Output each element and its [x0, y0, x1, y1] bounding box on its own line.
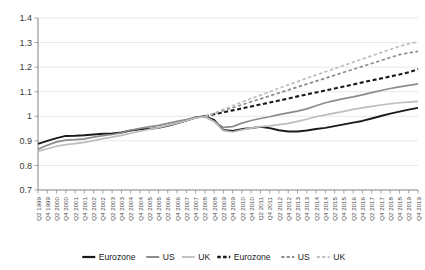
y-tick-label: 1.3 — [19, 38, 32, 48]
series-eurozone-solid — [38, 108, 418, 144]
legend-label-eurozone-solid: Eurozone — [99, 252, 136, 262]
legend-label-us-dashed: US — [298, 252, 310, 262]
line-chart: 0.70.80.911.11.21.31.4 Q2 1999Q4 1999Q2 … — [0, 0, 425, 270]
x-tick-label: Q2 2002 — [90, 196, 97, 220]
x-axis: Q2 1999Q4 1999Q2 2000Q4 2000Q2 2001Q4 20… — [35, 190, 422, 221]
x-tick-label: Q4 2004 — [137, 196, 144, 220]
y-tick-label: 1 — [27, 111, 32, 121]
x-tick-label: Q2 2008 — [201, 196, 208, 220]
legend-label-uk-dashed: UK — [333, 252, 345, 262]
x-tick-label: Q2 2017 — [368, 196, 375, 220]
x-tick-label: Q4 2009 — [229, 196, 236, 220]
x-tick-label: Q2 2003 — [109, 196, 116, 220]
x-tick-label: Q4 2010 — [248, 196, 255, 220]
chart-legend: EurozoneUSUKEurozoneUSUK — [82, 252, 345, 262]
y-tick-label: 1.4 — [19, 13, 32, 23]
x-tick-label: Q4 2000 — [62, 196, 69, 220]
x-tick-label: Q2 2009 — [220, 196, 227, 220]
x-tick-label: Q4 2019 — [415, 196, 422, 220]
x-tick-label: Q2 1999 — [35, 196, 42, 220]
y-tick-label: 1.2 — [19, 62, 32, 72]
x-tick-label: Q2 2006 — [164, 196, 171, 220]
y-tick-label: 0.8 — [19, 161, 32, 171]
x-tick-label: Q2 2005 — [146, 196, 153, 220]
x-tick-label: Q4 2001 — [81, 196, 88, 220]
series-eurozone-dashed — [205, 69, 418, 116]
x-tick-label: Q4 2006 — [174, 196, 181, 220]
x-tick-label: Q4 2005 — [155, 196, 162, 220]
x-tick-label: Q4 2013 — [303, 196, 310, 220]
legend-label-us-solid: US — [163, 252, 175, 262]
x-tick-label: Q4 1999 — [44, 196, 51, 220]
y-tick-label: 0.7 — [19, 185, 32, 195]
x-tick-label: Q4 2014 — [322, 196, 329, 220]
x-tick-label: Q2 2010 — [239, 196, 246, 220]
x-tick-label: Q2 2000 — [53, 196, 60, 220]
x-tick-label: Q2 2016 — [350, 196, 357, 220]
x-tick-label: Q2 2007 — [183, 196, 190, 220]
y-tick-label: 1.1 — [19, 87, 32, 97]
x-tick-label: Q4 2003 — [118, 196, 125, 220]
x-tick-label: Q2 2018 — [387, 196, 394, 220]
x-tick-label: Q4 2007 — [192, 196, 199, 220]
x-tick-label: Q4 2015 — [340, 196, 347, 220]
x-tick-label: Q4 2017 — [378, 196, 385, 220]
x-tick-label: Q2 2015 — [331, 196, 338, 220]
x-tick-label: Q4 2002 — [99, 196, 106, 220]
gridlines — [38, 18, 418, 190]
x-tick-label: Q4 2016 — [359, 196, 366, 220]
x-tick-label: Q2 2004 — [127, 196, 134, 220]
series-uk-dashed — [205, 42, 418, 117]
x-tick-label: Q2 2019 — [405, 196, 412, 220]
x-tick-label: Q4 2012 — [285, 196, 292, 220]
x-tick-label: Q2 2011 — [257, 196, 264, 220]
x-tick-label: Q4 2011 — [266, 196, 273, 220]
series-lines — [38, 42, 418, 152]
legend-label-uk-solid: UK — [198, 252, 210, 262]
y-tick-label: 0.9 — [19, 136, 32, 146]
legend-label-eurozone-dashed: Eurozone — [234, 252, 271, 262]
y-axis: 0.70.80.911.11.21.31.4 — [19, 13, 38, 195]
x-tick-label: Q2 2014 — [313, 196, 320, 220]
x-tick-label: Q2 2012 — [276, 196, 283, 220]
x-tick-label: Q2 2013 — [294, 196, 301, 220]
chart-container: 0.70.80.911.11.21.31.4 Q2 1999Q4 1999Q2 … — [0, 0, 425, 270]
x-tick-label: Q2 2001 — [72, 196, 79, 220]
x-tick-label: Q4 2018 — [396, 196, 403, 220]
x-tick-label: Q4 2008 — [211, 196, 218, 220]
